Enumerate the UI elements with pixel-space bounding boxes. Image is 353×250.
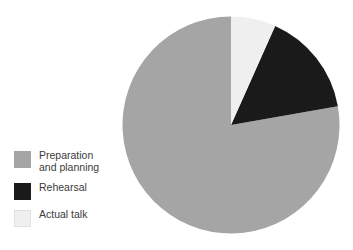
pie-chart-plot-area — [122, 16, 340, 234]
legend-item-actual-talk[interactable]: Actual talk — [14, 209, 124, 227]
pie-chart-figure: Preparation and planning Rehearsal Actua… — [0, 0, 353, 250]
pie-chart-svg — [122, 16, 340, 234]
legend-item-preparation-and-planning[interactable]: Preparation and planning — [14, 150, 124, 173]
pie-slice-group — [122, 16, 339, 233]
legend-item-rehearsal[interactable]: Rehearsal — [14, 182, 124, 200]
legend-swatch-actual-talk — [14, 210, 31, 227]
legend-label-rehearsal: Rehearsal — [39, 182, 87, 194]
legend-label-preparation-and-planning: Preparation and planning — [39, 150, 99, 173]
legend-swatch-preparation-and-planning — [14, 151, 31, 168]
legend-swatch-rehearsal — [14, 183, 31, 200]
legend-label-actual-talk: Actual talk — [39, 209, 87, 221]
chart-legend: Preparation and planning Rehearsal Actua… — [14, 150, 124, 236]
